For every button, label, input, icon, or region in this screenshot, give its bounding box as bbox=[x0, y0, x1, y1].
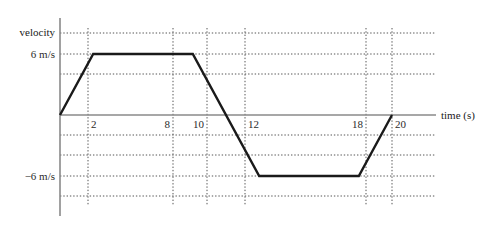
x-axis-caption: time (s) bbox=[441, 109, 475, 122]
x-tick-label-18: 18 bbox=[352, 118, 364, 130]
chart-background bbox=[0, 0, 492, 247]
x-tick-label-20: 20 bbox=[395, 118, 407, 130]
x-tick-label-10: 10 bbox=[193, 118, 205, 130]
y-tick-label-6: 6 m/s bbox=[31, 48, 55, 60]
y-tick-label-neg6: −6 m/s bbox=[25, 170, 55, 182]
chart-canvas: velocity 6 m/s −6 m/s 2 8 10 12 18 20 ti… bbox=[0, 0, 492, 247]
x-tick-label-8: 8 bbox=[165, 118, 171, 130]
y-axis-caption: velocity bbox=[20, 26, 56, 38]
x-tick-label-12: 12 bbox=[248, 118, 259, 130]
velocity-time-graph-figure: velocity 6 m/s −6 m/s 2 8 10 12 18 20 ti… bbox=[0, 0, 492, 247]
x-tick-label-2: 2 bbox=[91, 118, 97, 130]
